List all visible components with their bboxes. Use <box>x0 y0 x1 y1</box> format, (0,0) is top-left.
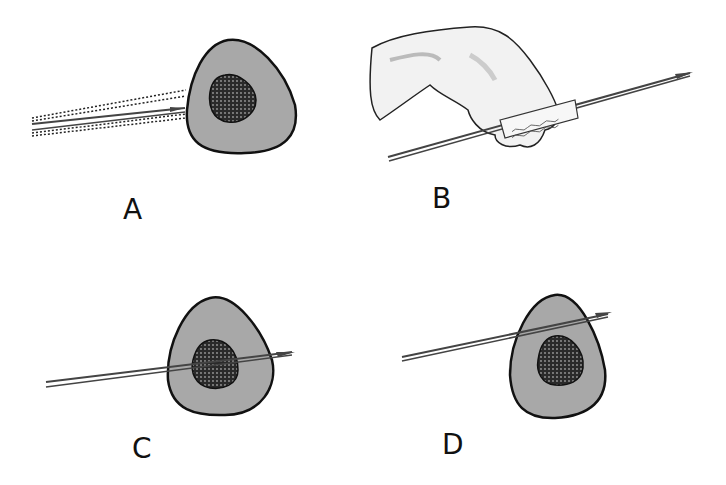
panel-b <box>370 27 693 161</box>
panel-label-c: C <box>132 432 152 465</box>
trajectory-dotted-lines <box>32 90 186 136</box>
panel-label-a: A <box>123 193 142 226</box>
panel-label-b: B <box>432 182 451 215</box>
figure-canvas <box>0 0 726 485</box>
panel-a <box>32 40 296 153</box>
panel-c <box>46 297 295 415</box>
panel-label-d: D <box>442 428 464 461</box>
panel-d <box>402 295 612 418</box>
